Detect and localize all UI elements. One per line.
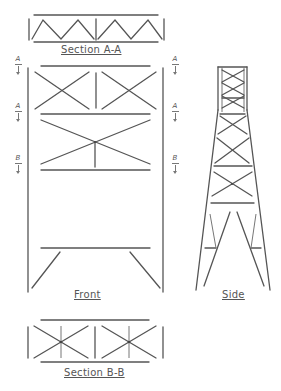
arrow-down-icon (173, 72, 177, 75)
marker-letter: B (173, 154, 178, 162)
front-view (28, 66, 163, 292)
marker-bar (15, 64, 22, 65)
section-b-b-view (28, 320, 163, 362)
marker-letter: A (16, 55, 21, 63)
arrow-down-icon (16, 119, 20, 122)
marker-bar (15, 111, 22, 112)
arrow-down-icon (16, 72, 20, 75)
section-marker-a-right-mid: A (170, 103, 180, 122)
marker-stem (175, 66, 176, 72)
arrow-down-icon (173, 119, 177, 122)
marker-letter: A (16, 102, 21, 110)
marker-bar (15, 163, 22, 164)
marker-letter: A (173, 102, 178, 110)
marker-letter: B (16, 154, 21, 162)
marker-stem (18, 165, 19, 171)
front-label: Front (74, 290, 101, 300)
section-a-a-view (29, 15, 164, 42)
marker-bar (172, 111, 179, 112)
side-label: Side (222, 290, 245, 300)
arrow-down-icon (16, 171, 20, 174)
marker-bar (172, 64, 179, 65)
marker-stem (18, 113, 19, 119)
marker-stem (175, 165, 176, 171)
section-marker-b-right: B (170, 155, 180, 174)
tower-drawing (0, 0, 281, 391)
section-b-b-label: Section B-B (64, 368, 125, 378)
marker-bar (172, 163, 179, 164)
section-marker-b-left: B (13, 155, 23, 174)
section-a-a-label: Section A-A (61, 45, 121, 55)
side-view (196, 67, 270, 290)
section-marker-a-left-mid: A (13, 103, 23, 122)
marker-stem (175, 113, 176, 119)
arrow-down-icon (173, 171, 177, 174)
section-marker-a-left-top: A (13, 56, 23, 75)
section-marker-a-right-top: A (170, 56, 180, 75)
marker-letter: A (173, 55, 178, 63)
marker-stem (18, 66, 19, 72)
